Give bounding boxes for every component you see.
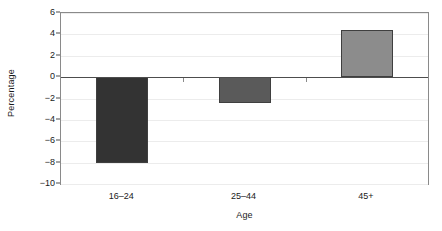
- bar-chart-figure: Percentage 6420−2−4−6−8−10 16–2425–4445+…: [0, 0, 442, 231]
- x-axis-tick-labels: 16–2425–4445+: [60, 0, 429, 231]
- x-axis-title-text: Age: [236, 210, 253, 220]
- y-axis-tick-label: −2: [18, 93, 60, 102]
- y-axis-tick-label: 0: [18, 72, 60, 81]
- y-axis-tick-label: 4: [18, 29, 60, 38]
- y-axis-tick-labels: 6420−2−4−6−8−10: [18, 0, 60, 231]
- x-axis-tick-label: 25–44: [231, 191, 256, 201]
- y-axis-tick-label: −6: [18, 136, 60, 145]
- y-axis-tick-label: −8: [18, 157, 60, 166]
- y-axis-tick-label: −10: [18, 179, 60, 188]
- y-axis-tick-label: −4: [18, 114, 60, 123]
- y-axis-tick-label: 6: [18, 8, 60, 17]
- x-axis-title: Age: [60, 210, 429, 220]
- x-axis-tick-label: 45+: [358, 191, 373, 201]
- x-axis-tick-label: 16–24: [109, 191, 134, 201]
- y-axis-tick-label: 2: [18, 50, 60, 59]
- y-axis-title-text: Percentage: [6, 69, 16, 117]
